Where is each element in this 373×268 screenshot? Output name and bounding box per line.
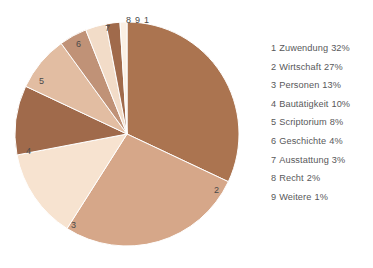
legend-label: Wirtschaft	[279, 62, 321, 72]
legend-value: 8%	[330, 117, 343, 127]
slice-marker-2: 2	[214, 186, 219, 195]
legend-value: 2%	[307, 173, 320, 183]
slice-marker-8: 8	[126, 16, 131, 25]
legend-index: 7	[271, 155, 276, 165]
slice-marker-5: 5	[39, 77, 44, 86]
legend-label: Ausstattung	[279, 155, 329, 165]
legend-index: 1	[271, 43, 276, 53]
pie-chart-svg	[14, 8, 240, 260]
legend-index: 8	[271, 173, 276, 183]
slice-marker-1: 1	[144, 16, 149, 25]
legend-index: 4	[271, 99, 276, 109]
chart-legend: 1 Zuwendung 32% 2 Wirtschaft 27% 3 Perso…	[271, 43, 371, 210]
legend-label: Bautätigkeit	[279, 99, 328, 109]
legend-value: 4%	[329, 136, 342, 146]
legend-value: 10%	[331, 99, 350, 109]
legend-item: 9 Weitere 1%	[271, 192, 371, 211]
legend-value: 32%	[331, 43, 350, 53]
legend-label: Recht	[279, 173, 304, 183]
legend-label: Geschichte	[279, 136, 326, 146]
legend-index: 5	[271, 117, 276, 127]
legend-value: 1%	[314, 192, 327, 202]
legend-label: Scriptorium	[279, 117, 327, 127]
legend-value: 13%	[322, 80, 341, 90]
slice-marker-4: 4	[26, 147, 31, 156]
legend-item: 1 Zuwendung 32%	[271, 43, 371, 62]
legend-item: 6 Geschichte 4%	[271, 136, 371, 155]
legend-index: 9	[271, 192, 276, 202]
legend-value: 3%	[332, 155, 345, 165]
slice-marker-9: 9	[135, 16, 140, 25]
legend-index: 6	[271, 136, 276, 146]
legend-item: 4 Bautätigkeit 10%	[271, 99, 371, 118]
legend-item: 8 Recht 2%	[271, 173, 371, 192]
legend-label: Personen	[279, 80, 319, 90]
pie-chart-area: 1 2 3 4 5 6 7 8 9	[14, 8, 240, 260]
legend-label: Zuwendung	[279, 43, 328, 53]
slice-marker-3: 3	[71, 221, 76, 230]
legend-index: 2	[271, 62, 276, 72]
legend-index: 3	[271, 80, 276, 90]
slice-marker-7: 7	[105, 24, 110, 33]
legend-label: Weitere	[279, 192, 311, 202]
slice-marker-6: 6	[76, 40, 81, 49]
legend-item: 2 Wirtschaft 27%	[271, 62, 371, 81]
legend-value: 27%	[324, 62, 343, 72]
legend-item: 7 Ausstattung 3%	[271, 155, 371, 174]
legend-item: 5 Scriptorium 8%	[271, 117, 371, 136]
pie-chart-figure: 1 2 3 4 5 6 7 8 9 1 Zuwendung 32% 2 Wirt…	[0, 0, 373, 268]
legend-item: 3 Personen 13%	[271, 80, 371, 99]
